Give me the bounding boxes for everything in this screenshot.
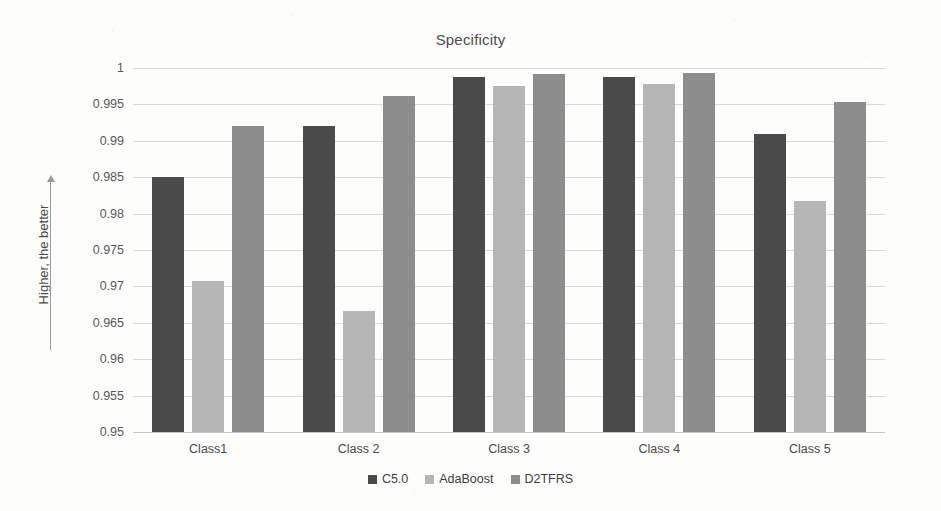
bar-adaboost[interactable] <box>643 84 675 432</box>
bar-d2tfrs[interactable] <box>533 74 565 432</box>
y-axis-tick-label: 0.97 <box>100 279 124 293</box>
chart-legend: C5.0AdaBoostD2TFRS <box>0 472 941 486</box>
plot-area: 10.9950.990.9850.980.9750.970.9650.960.9… <box>133 68 885 432</box>
bar-adaboost[interactable] <box>794 201 826 433</box>
bar-adaboost[interactable] <box>192 281 224 432</box>
legend-label: D2TFRS <box>525 472 574 486</box>
legend-swatch-icon <box>425 475 434 484</box>
bar-c5-0[interactable] <box>303 126 335 432</box>
bar-c5-0[interactable] <box>453 77 485 432</box>
x-axis-tick-label: Class1 <box>152 442 264 456</box>
x-axis-tick-label: Class 4 <box>603 442 715 456</box>
bar-adaboost[interactable] <box>343 311 375 432</box>
y-axis-tick-label: 0.955 <box>93 389 124 403</box>
y-axis-tick-label: 0.95 <box>100 425 124 439</box>
up-arrow-icon <box>50 181 51 350</box>
legend-swatch-icon <box>511 475 520 484</box>
y-axis-tick-label: 0.965 <box>93 316 124 330</box>
bar-group: Class 5 <box>754 68 866 432</box>
bar-group: Class 3 <box>453 68 565 432</box>
bar-d2tfrs[interactable] <box>383 96 415 432</box>
y-axis-tick-label: 0.985 <box>93 170 124 184</box>
chart-page: Specificity Higher, the better 10.9950.9… <box>0 0 941 511</box>
bar-d2tfrs[interactable] <box>683 73 715 432</box>
y-axis-tick-label: 0.98 <box>100 207 124 221</box>
bar-d2tfrs[interactable] <box>232 126 264 432</box>
y-axis-tick-label: 0.975 <box>93 243 124 257</box>
x-axis-tick-label: Class 5 <box>754 442 866 456</box>
bar-c5-0[interactable] <box>603 77 635 432</box>
y-axis-tick-label: 0.995 <box>93 97 124 111</box>
y-axis-caption: Higher, the better <box>18 175 52 350</box>
bar-group: Class 4 <box>603 68 715 432</box>
bar-group: Class 2 <box>303 68 415 432</box>
bar-c5-0[interactable] <box>754 134 786 432</box>
bar-group: Class1 <box>152 68 264 432</box>
x-axis-tick-label: Class 2 <box>303 442 415 456</box>
y-axis-tick-label: 0.99 <box>100 134 124 148</box>
chart-title: Specificity <box>0 31 941 48</box>
y-axis-tick-label: 1 <box>117 61 124 75</box>
gridline <box>133 432 885 433</box>
legend-swatch-icon <box>368 475 377 484</box>
legend-label: AdaBoost <box>439 472 493 486</box>
bar-adaboost[interactable] <box>493 86 525 432</box>
y-axis-caption-label: Higher, the better <box>36 167 51 342</box>
x-axis-tick-label: Class 3 <box>453 442 565 456</box>
legend-item-d2tfrs[interactable]: D2TFRS <box>511 472 574 486</box>
y-axis-tick-label: 0.96 <box>100 352 124 366</box>
legend-label: C5.0 <box>382 472 408 486</box>
legend-item-adaboost[interactable]: AdaBoost <box>425 472 493 486</box>
legend-item-c5-0[interactable]: C5.0 <box>368 472 408 486</box>
bar-d2tfrs[interactable] <box>834 102 866 432</box>
bar-c5-0[interactable] <box>152 177 184 432</box>
